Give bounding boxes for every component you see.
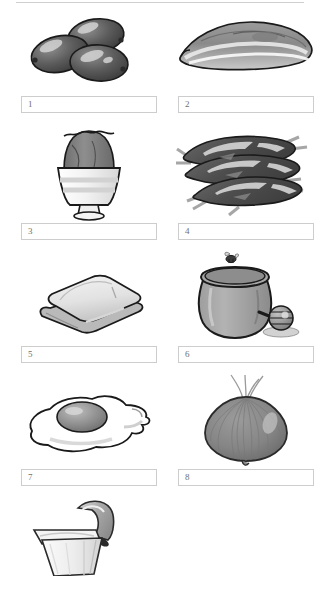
- bee-icon: [225, 252, 239, 263]
- answer-number-6: 6: [185, 350, 190, 359]
- worksheet-row: 1: [0, 8, 318, 113]
- honey-jar-illustration: [173, 250, 318, 346]
- answer-input-6[interactable]: 6: [178, 346, 314, 363]
- item-cell-9: [16, 496, 162, 576]
- item-cell-3: 3: [16, 123, 162, 240]
- answer-input-5[interactable]: 5: [21, 346, 157, 363]
- fried-egg-illustration: [16, 373, 162, 469]
- item-cell-5: 5: [16, 250, 162, 363]
- row-spacer: [0, 113, 318, 123]
- answer-number-1: 1: [28, 100, 33, 109]
- answer-input-8[interactable]: 8: [178, 469, 314, 486]
- item-cell-8: 8: [173, 373, 318, 486]
- onion-illustration: [173, 373, 318, 469]
- answer-number-2: 2: [185, 100, 190, 109]
- answer-input-4[interactable]: 4: [178, 223, 314, 240]
- row-spacer: [0, 363, 318, 373]
- answer-input-7[interactable]: 7: [21, 469, 157, 486]
- answer-number-4: 4: [185, 227, 190, 236]
- answer-number-5: 5: [28, 350, 33, 359]
- worksheet-grid: 1: [0, 8, 318, 576]
- answer-input-3[interactable]: 3: [21, 223, 157, 240]
- item-cell-2: 2: [173, 8, 318, 113]
- item-cell-1: 1: [16, 8, 162, 113]
- boiled-egg-in-egg-cup-illustration: [16, 123, 162, 223]
- worksheet-row: [0, 496, 318, 576]
- answer-number-7: 7: [28, 473, 33, 482]
- item-cell-4: 4: [173, 123, 318, 240]
- answer-input-1[interactable]: 1: [21, 96, 157, 113]
- flatfish-illustration: [173, 8, 318, 96]
- olives-illustration: [16, 8, 162, 96]
- item-cell-7: 7: [16, 373, 162, 486]
- yogurt-tub-illustration: [16, 496, 162, 576]
- item-cell-empty: [173, 496, 318, 576]
- answer-number-3: 3: [28, 227, 33, 236]
- row-spacer: [0, 240, 318, 250]
- bread-slices-illustration: [16, 250, 162, 346]
- top-divider: [16, 2, 304, 3]
- worksheet-row: 5: [0, 250, 318, 363]
- worksheet-row: 3: [0, 123, 318, 240]
- item-cell-6: 6: [173, 250, 318, 363]
- row-spacer: [0, 486, 318, 496]
- answer-number-8: 8: [185, 473, 190, 482]
- answer-input-2[interactable]: 2: [178, 96, 314, 113]
- worksheet-row: 7: [0, 373, 318, 486]
- sardines-illustration: [173, 123, 318, 223]
